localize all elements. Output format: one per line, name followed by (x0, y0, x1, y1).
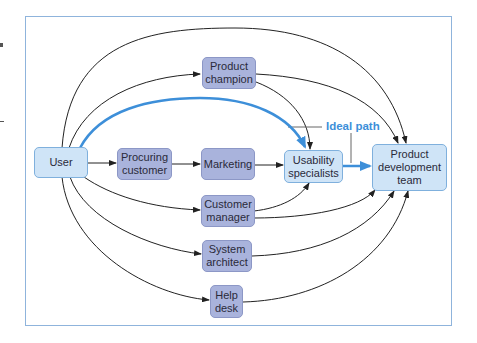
node-marketing-label: Marketing (204, 158, 252, 171)
node-marketing: Marketing (201, 148, 255, 180)
node-usability-specialists-label: Usability specialists (285, 154, 342, 180)
node-user: User (34, 147, 88, 178)
node-customer-manager: Customer manager (201, 195, 255, 227)
node-product-champion-label: Product champion (203, 60, 255, 86)
node-product-development-team: Product development team (372, 144, 447, 191)
ideal-path-label: Ideal path (326, 120, 380, 132)
margin-mark-top (0, 43, 3, 47)
node-system-architect: System architect (202, 240, 252, 272)
node-procuring-customer-label: Procuring customer (118, 151, 171, 177)
node-system-architect-label: System architect (203, 243, 251, 269)
node-product-development-team-label: Product development team (378, 148, 441, 187)
node-user-label: User (49, 156, 72, 169)
node-product-champion: Product champion (202, 57, 256, 89)
node-customer-manager-label: Customer manager (202, 198, 254, 224)
node-usability-specialists: Usability specialists (284, 150, 343, 183)
node-procuring-customer: Procuring customer (117, 148, 172, 180)
node-help-desk: Help desk (210, 285, 243, 318)
node-help-desk-label: Help desk (211, 289, 242, 315)
margin-mark-bottom (0, 121, 4, 122)
